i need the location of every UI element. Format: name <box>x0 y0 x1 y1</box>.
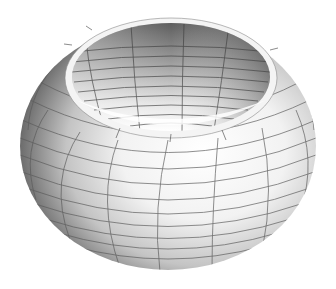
torus-figure <box>0 0 336 289</box>
